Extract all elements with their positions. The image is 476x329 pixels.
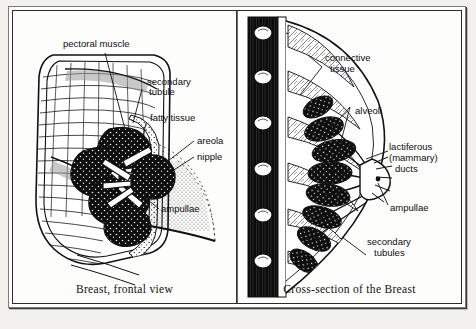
leader-secondary-tubules — [342, 237, 366, 255]
nipple-region — [360, 157, 392, 202]
label-ampullae-left: ampullae — [161, 204, 200, 215]
label-fatty-tissue: fatty tissue — [150, 113, 195, 124]
label-lactiferous-line2: (mammary) — [389, 153, 438, 164]
label-connective-tissue-line1: connective — [325, 53, 370, 64]
figure-frame-outer: pectoral muscle secondary tubule fatty t… — [8, 6, 466, 308]
label-lactiferous-line3: ducts — [395, 164, 418, 175]
label-connective-tissue-line2: tissue — [330, 64, 355, 75]
panel-cross-section: connective tissue alveoli lactiferous (m… — [238, 11, 461, 303]
label-secondary-tubules-line1: secondary — [367, 237, 411, 248]
label-lactiferous-line1: lactiferous — [389, 142, 432, 153]
label-pectoral-muscle: pectoral muscle — [63, 39, 130, 50]
chest-wall — [248, 17, 286, 297]
label-secondary-tubule-line2: tubule — [149, 87, 175, 98]
panel-frontal-view: pectoral muscle secondary tubule fatty t… — [13, 11, 236, 303]
anatomy-figure: pectoral muscle secondary tubule fatty t… — [0, 0, 476, 329]
label-areola: areola — [197, 136, 223, 147]
label-secondary-tubules-line2: tubules — [374, 248, 405, 259]
label-alveoli: alveoli — [355, 106, 382, 117]
panel-divider — [236, 11, 238, 303]
figure-frame-inner: pectoral muscle secondary tubule fatty t… — [12, 10, 462, 304]
label-ampullae-right: ampullae — [390, 203, 429, 214]
label-nipple: nipple — [197, 152, 222, 163]
caption-cross-section: Cross-section of the Breast — [238, 283, 461, 295]
ampulla-marker — [376, 177, 381, 182]
caption-frontal-view: Breast, frontal view — [13, 283, 236, 295]
